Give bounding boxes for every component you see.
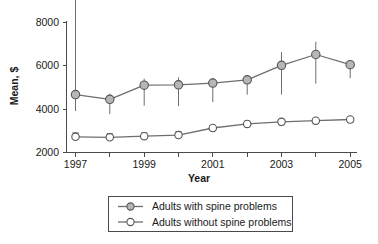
legend-marker-filled-circle-icon bbox=[127, 203, 134, 210]
x-tick-label-1997: 1997 bbox=[64, 158, 88, 170]
legend-label-without: Adults without spine problems bbox=[152, 216, 292, 228]
series-adults-without-spine-problems bbox=[72, 116, 354, 141]
x-tick-label-2005: 2005 bbox=[339, 158, 363, 170]
y-tick-label-8000: 8000 bbox=[36, 16, 60, 28]
x-tick-label-2001: 2001 bbox=[201, 158, 225, 170]
legend-marker-open-circle-icon bbox=[127, 218, 134, 225]
x-axis-title: Year bbox=[188, 172, 210, 184]
x-tick-label-1999: 1999 bbox=[133, 158, 157, 170]
legend-label-with: Adults with spine problems bbox=[152, 200, 277, 212]
chart-legend: Adults with spine problems Adults withou… bbox=[109, 197, 293, 232]
y-tick-label-2000: 2000 bbox=[36, 146, 60, 158]
line-chart-canvas: 2000 4000 6000 8000 1997 1999 2001 2003 … bbox=[0, 0, 378, 244]
y-axis-tick-labels: 2000 4000 6000 8000 bbox=[36, 16, 60, 158]
x-tick-label-2003: 2003 bbox=[270, 158, 294, 170]
y-tick-marks bbox=[63, 23, 67, 153]
y-tick-label-4000: 4000 bbox=[36, 103, 60, 115]
series-adults-with-spine-problems bbox=[71, 0, 354, 114]
x-tick-marks bbox=[76, 153, 351, 158]
y-tick-label-6000: 6000 bbox=[36, 59, 60, 71]
chart-figure: 2000 4000 6000 8000 1997 1999 2001 2003 … bbox=[0, 0, 378, 244]
x-axis-tick-labels: 1997 1999 2001 2003 2005 bbox=[64, 158, 362, 170]
y-axis-title: Mean, $ bbox=[8, 67, 20, 106]
